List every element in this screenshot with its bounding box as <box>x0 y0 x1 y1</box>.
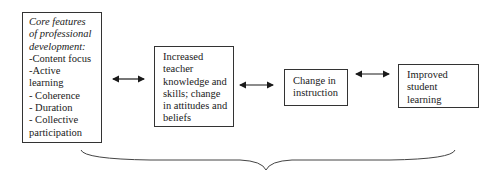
curly-brace-icon <box>81 150 455 170</box>
connectors-layer <box>0 0 499 180</box>
